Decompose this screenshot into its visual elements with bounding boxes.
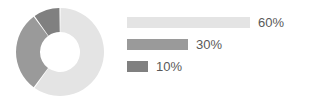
- legend-swatch-bar: [127, 61, 148, 72]
- legend-bar-list: 60% 30% 10%: [127, 17, 310, 89]
- legend-swatch-bar: [127, 39, 188, 50]
- donut-chart: [16, 8, 104, 96]
- legend-value-label: 10%: [156, 61, 182, 72]
- legend-value-label: 60%: [258, 17, 284, 28]
- legend-row[interactable]: 60%: [127, 17, 310, 28]
- legend-row[interactable]: 30%: [127, 39, 310, 50]
- donut-chart-svg: [16, 8, 104, 96]
- chart-figure: 60% 30% 10%: [0, 0, 310, 101]
- legend-value-label: 30%: [196, 39, 222, 50]
- legend-row[interactable]: 10%: [127, 61, 310, 72]
- legend-swatch-bar: [127, 17, 250, 28]
